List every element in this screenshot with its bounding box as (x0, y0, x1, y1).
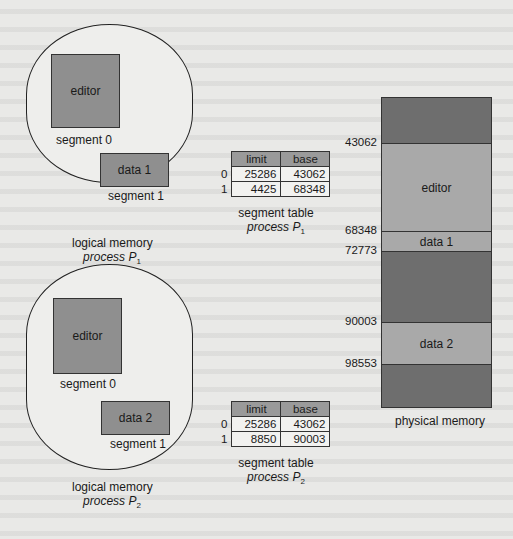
column-header-limit: limit (232, 402, 281, 417)
free-block (382, 252, 491, 323)
segment-name: editor (70, 84, 100, 98)
segment-data2-p2: data 2 (101, 401, 170, 435)
segment-table-caption-p2: segment table process P2 (236, 456, 316, 486)
column-header-base: base (281, 152, 330, 167)
segment-table-p1: limit base 0 25286 43062 1 4425 68348 (221, 151, 330, 197)
segment-editor-p1: editor (51, 54, 120, 128)
address-label: 43062 (345, 136, 377, 148)
segment-name: editor (72, 329, 102, 343)
free-block (382, 365, 491, 407)
segment-table-caption-p1: segment table process P1 (236, 206, 316, 236)
segment-label: segment 1 (110, 437, 166, 451)
address-label: 98553 (345, 357, 377, 369)
address-label: 68348 (345, 224, 377, 236)
block-editor: editor (382, 144, 491, 232)
segment-label: segment 1 (108, 189, 164, 203)
segment-editor-p2: editor (53, 298, 122, 374)
block-data2: data 2 (382, 323, 491, 365)
logical-memory-caption-p2: logical memory process P2 (72, 480, 152, 510)
table-row: 0 25286 43062 (221, 167, 330, 182)
free-block (382, 98, 491, 144)
logical-memory-caption-p1: logical memory process P1 (72, 236, 152, 266)
physical-memory: editor data 1 data 2 (381, 97, 492, 408)
table-row: 1 4425 68348 (221, 182, 330, 197)
table-row: 0 25286 43062 (221, 417, 330, 432)
column-header-base: base (281, 402, 330, 417)
address-label: 72773 (345, 244, 377, 256)
block-data1: data 1 (382, 232, 491, 252)
segment-name: data 1 (118, 163, 151, 177)
segment-data1-p1: data 1 (100, 153, 169, 187)
table-row: 1 8850 90003 (221, 432, 330, 447)
physical-memory-caption: physical memory (395, 414, 485, 428)
address-label: 90003 (345, 315, 377, 327)
segment-table-p2: limit base 0 25286 43062 1 8850 90003 (221, 401, 330, 447)
column-header-limit: limit (232, 152, 281, 167)
segment-label: segment 0 (56, 133, 112, 147)
segment-label: segment 0 (60, 377, 116, 391)
segment-name: data 2 (119, 411, 152, 425)
